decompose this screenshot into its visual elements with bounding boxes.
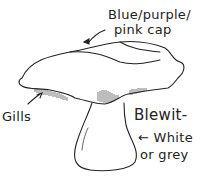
cap-wave (70, 52, 160, 64)
cap-label-line2: pink cap (114, 23, 172, 36)
stem-label-line1: ← White (138, 131, 193, 144)
cap-label-line1: Blue/purple/ (108, 8, 191, 21)
gills-label: Gills (2, 110, 31, 123)
mushroom-diagram: Blue/purple/ pink cap Gills Blewit- ← Wh… (0, 0, 213, 176)
cap-outline (19, 41, 184, 104)
stem-outline (75, 103, 137, 171)
stem-label-line2: or grey (140, 148, 189, 161)
species-name-label: Blewit- (134, 109, 188, 122)
cap-arrow (88, 30, 105, 43)
gills-arrow (28, 94, 40, 104)
